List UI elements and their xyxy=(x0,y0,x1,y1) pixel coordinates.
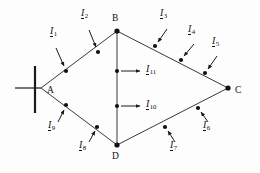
node-label-B: B xyxy=(112,14,118,24)
node-label-C: C xyxy=(235,86,241,96)
current-label-I7: I7 xyxy=(170,140,177,151)
arrow-I9 xyxy=(58,110,64,122)
current-arrows xyxy=(56,29,217,142)
tap-dot-I8 xyxy=(95,125,99,129)
current-label-I3: I3 xyxy=(160,8,167,19)
tap-dot-I1 xyxy=(64,69,68,73)
current-label-I5: I5 xyxy=(212,36,219,47)
node-dot-C xyxy=(225,85,230,90)
tap-dot-I5 xyxy=(203,71,207,75)
current-label-I11: I11 xyxy=(146,64,156,75)
node-label-D: D xyxy=(112,152,119,162)
node-dot-B xyxy=(114,28,119,33)
current-label-I1: I1 xyxy=(50,26,57,37)
tap-dot-I11 xyxy=(115,69,119,73)
current-label-I10: I10 xyxy=(146,99,156,110)
edge-C-D xyxy=(117,88,228,145)
network-edges xyxy=(41,31,228,145)
current-label-I8: I8 xyxy=(79,140,86,151)
tap-dot-I10 xyxy=(115,104,119,108)
diagram-canvas: A B C D I1 I2 I3 I4 I5 I6 I7 I8 I9 I10 I… xyxy=(0,0,260,173)
arrow-I5 xyxy=(208,56,217,69)
tap-dot-I6 xyxy=(196,106,200,110)
arrow-I4 xyxy=(184,44,194,56)
tap-dot-I2 xyxy=(96,50,100,54)
tap-dot-I7 xyxy=(163,125,167,129)
current-label-I9: I9 xyxy=(48,120,55,131)
node-dot-D xyxy=(114,142,119,147)
edge-A-B xyxy=(41,31,117,88)
node-label-A: A xyxy=(47,86,54,96)
arrow-I2 xyxy=(89,30,96,47)
arrow-I1 xyxy=(56,48,64,66)
current-label-I6: I6 xyxy=(203,120,210,131)
current-label-I2: I2 xyxy=(81,8,88,19)
load-tap-dots xyxy=(64,44,207,129)
ring-network-svg xyxy=(0,0,260,173)
arrow-I3 xyxy=(158,29,167,42)
arrow-I8 xyxy=(89,131,95,142)
tap-dot-I3 xyxy=(153,44,157,48)
source-busbar-symbol xyxy=(15,66,41,113)
tap-dot-I4 xyxy=(179,58,183,62)
current-label-I4: I4 xyxy=(188,24,195,35)
edge-D-A xyxy=(41,88,117,145)
tap-dot-I9 xyxy=(64,103,68,107)
